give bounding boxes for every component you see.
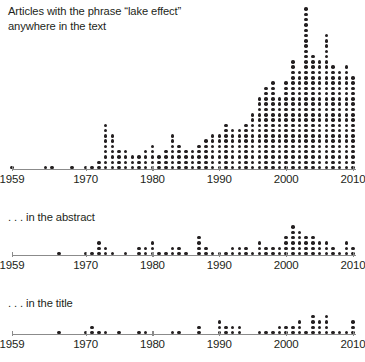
- dot: [338, 71, 342, 75]
- dot: [111, 139, 115, 143]
- x-axis-text: [12, 169, 356, 170]
- dot: [325, 71, 329, 75]
- dot: [291, 92, 295, 96]
- x-tick-1980: [152, 252, 153, 257]
- dot: [298, 113, 302, 117]
- x-tick-1990: [219, 331, 220, 336]
- dot: [311, 60, 315, 64]
- dot: [284, 150, 288, 154]
- dot: [351, 326, 355, 330]
- dot: [291, 124, 295, 128]
- dot: [151, 241, 155, 245]
- dot: [291, 113, 295, 117]
- dot: [284, 113, 288, 117]
- dot: [104, 247, 108, 251]
- x-tick-label-1980: 1980: [140, 338, 165, 350]
- dot: [124, 155, 128, 159]
- dot: [264, 150, 268, 154]
- x-tick-label-1970: 1970: [73, 338, 98, 350]
- dot: [345, 150, 349, 154]
- dot: [351, 129, 355, 133]
- dot: [345, 87, 349, 91]
- dot: [325, 139, 329, 143]
- x-tick-label-2000: 2000: [274, 338, 299, 350]
- dot: [291, 139, 295, 143]
- dot: [291, 129, 295, 133]
- dot: [258, 118, 262, 122]
- x-tick-label-2010: 2010: [341, 338, 365, 350]
- dot: [338, 155, 342, 159]
- dot: [284, 129, 288, 133]
- dot: [345, 124, 349, 128]
- x-tick-label-1990: 1990: [207, 259, 232, 271]
- dot: [345, 76, 349, 80]
- dot: [331, 87, 335, 91]
- dot: [351, 81, 355, 85]
- dot: [271, 87, 275, 91]
- dot: [177, 161, 181, 165]
- dot: [291, 150, 295, 154]
- dot: [318, 81, 322, 85]
- dot: [331, 139, 335, 143]
- dot: [325, 76, 329, 80]
- dot: [117, 161, 121, 165]
- dot: [144, 161, 148, 165]
- dot: [238, 129, 242, 133]
- dot: [258, 97, 262, 101]
- dot: [278, 161, 282, 165]
- dot: [231, 134, 235, 138]
- dot: [351, 76, 355, 80]
- dot: [224, 155, 228, 159]
- dot: [318, 113, 322, 117]
- dot: [304, 150, 308, 154]
- dot: [331, 129, 335, 133]
- dot: [264, 124, 268, 128]
- dot: [304, 13, 308, 17]
- dot: [284, 161, 288, 165]
- dot: [325, 39, 329, 43]
- dot: [244, 134, 248, 138]
- dot: [264, 155, 268, 159]
- dot: [231, 247, 235, 251]
- dot: [311, 326, 315, 330]
- dot: [298, 108, 302, 112]
- dot: [278, 139, 282, 143]
- dot: [251, 124, 255, 128]
- dot: [304, 65, 308, 69]
- dot: [331, 97, 335, 101]
- dot: [224, 150, 228, 154]
- dot: [278, 108, 282, 112]
- dot: [318, 247, 322, 251]
- dot: [264, 97, 268, 101]
- dot: [311, 113, 315, 117]
- x-tick-1959: [12, 252, 13, 257]
- dot: [345, 247, 349, 251]
- dot: [131, 161, 135, 165]
- dot: [338, 118, 342, 122]
- dot: [264, 108, 268, 112]
- dot: [218, 320, 222, 324]
- dot: [304, 139, 308, 143]
- dot: [244, 129, 248, 133]
- dot: [304, 87, 308, 91]
- dot: [345, 113, 349, 117]
- dot: [298, 241, 302, 245]
- x-tick-label-2000: 2000: [274, 259, 299, 271]
- dot: [251, 134, 255, 138]
- dot: [311, 97, 315, 101]
- dot: [311, 92, 315, 96]
- dot: [264, 161, 268, 165]
- dot: [351, 139, 355, 143]
- dot: [284, 92, 288, 96]
- dot: [345, 108, 349, 112]
- x-tick-2000: [286, 252, 287, 257]
- dot: [338, 139, 342, 143]
- dot: [311, 161, 315, 165]
- dot: [264, 129, 268, 133]
- dot: [345, 129, 349, 133]
- dot: [304, 44, 308, 48]
- dot: [184, 161, 188, 165]
- dot: [151, 145, 155, 149]
- dot: [278, 145, 282, 149]
- dot: [331, 71, 335, 75]
